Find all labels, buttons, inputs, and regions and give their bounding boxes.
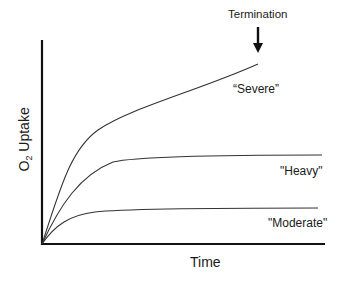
x-axis-label: Time [190,254,221,270]
label-heavy: "Heavy" [280,164,323,178]
label-severe: “Severe” [233,82,279,96]
y-axis-label-subscript: 2 [24,156,34,161]
label-moderate: "Moderate" [268,216,327,230]
termination-arrow-icon [253,27,263,53]
y-axis-label: O2 Uptake [16,104,35,174]
y-axis-label-rest: Uptake [16,107,32,155]
termination-annotation: Termination [228,8,287,20]
chart-canvas [0,0,341,283]
y-axis-label-main: O [16,161,32,172]
